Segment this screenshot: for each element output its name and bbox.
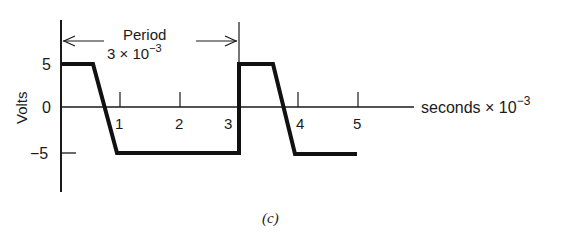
x-axis-label: seconds × 10−3 <box>421 94 531 116</box>
period-value: 3 × 10−3 <box>107 42 162 62</box>
x-tick-label-1: 1 <box>115 115 123 132</box>
y-tick-label-0: 0 <box>42 99 51 116</box>
x-tick-label-5: 5 <box>353 115 361 132</box>
x-tick-label-4: 4 <box>296 115 304 132</box>
waveform-figure: Period 3 × 10−3 5 0 −5 Volts 1 2 3 4 5 s… <box>0 0 582 234</box>
waveform-line <box>62 64 357 154</box>
figure-caption: (c) <box>262 210 279 227</box>
period-arrow-right <box>196 36 237 46</box>
period-label: Period <box>123 26 166 43</box>
x-tick-label-3: 3 <box>224 115 232 132</box>
y-tick-label-minus5: −5 <box>30 145 48 162</box>
period-arrow-left <box>63 36 104 46</box>
y-tick-label-5: 5 <box>42 56 51 73</box>
x-tick-label-2: 2 <box>175 115 183 132</box>
y-axis-label: Volts <box>13 91 30 124</box>
